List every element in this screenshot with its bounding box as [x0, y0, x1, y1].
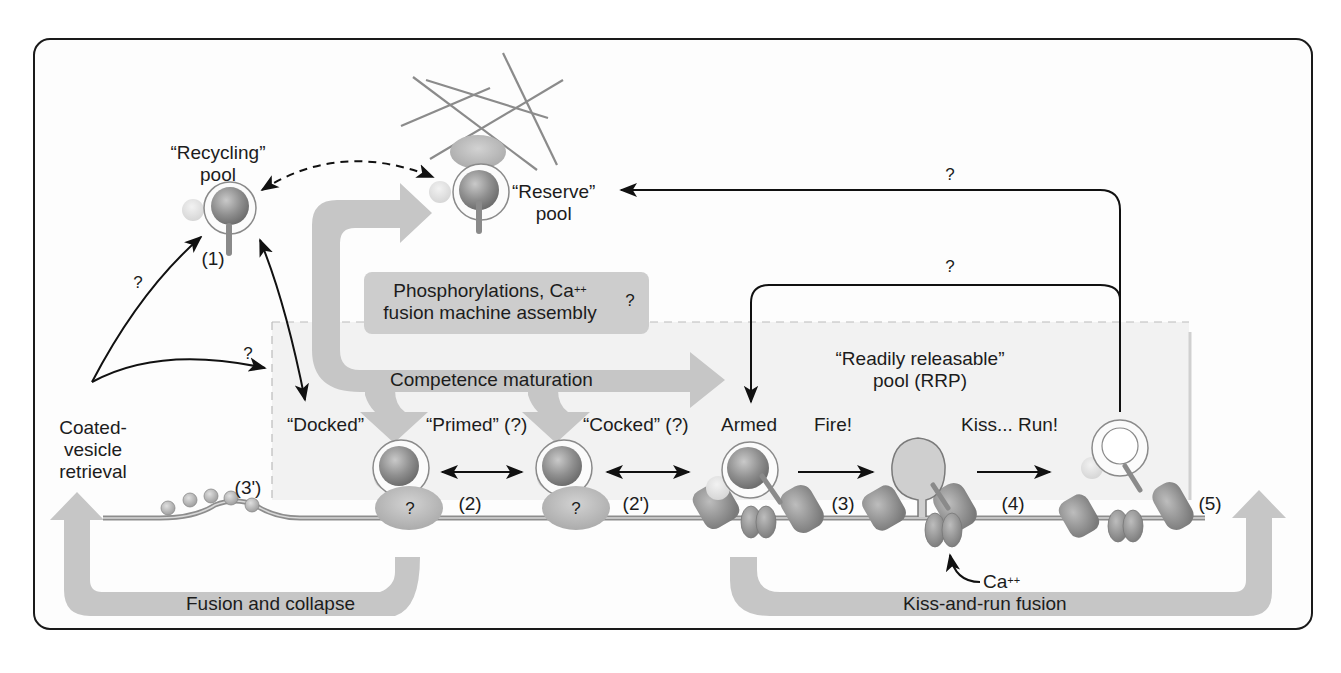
recycling-pool-label: “Recycling”pool [158, 142, 278, 186]
fusion-collapse-label: Fusion and collapse [186, 593, 355, 615]
step-2prime-label: (2') [616, 493, 656, 515]
rrp-label: “Readily releasable”pool (RRP) [820, 348, 1020, 392]
coated-vesicle-retrieval-label: Coated-vesicleretrieval [44, 417, 142, 483]
stage-armed-label: Armed [721, 414, 777, 436]
calcium-label: Ca++ [983, 571, 1020, 593]
stage-docked-label: “Docked” [287, 414, 364, 436]
step-2-label: (2) [452, 493, 488, 515]
step-4-label: (4) [995, 493, 1031, 515]
step-3-label: (3) [825, 493, 861, 515]
question-retrieval-recycling: ? [128, 272, 148, 294]
vesicle-cycle-diagram: “Recycling”pool (1) “Reserve”pool ? ? ? … [0, 0, 1341, 673]
docked-protein-question: ? [400, 498, 420, 520]
stage-kiss-run-label: Kiss... Run! [961, 414, 1058, 436]
step-5-label: (5) [1192, 493, 1228, 515]
stage-primed-label: “Primed” (?) [426, 414, 527, 436]
step-3prime-label: (3') [228, 477, 268, 499]
question-retrieval-rrp: ? [238, 343, 258, 365]
question-armed: ? [940, 256, 960, 278]
kiss-and-run-label: Kiss-and-run fusion [903, 593, 1067, 615]
primed-protein-question: ? [566, 498, 586, 520]
competence-maturation-label: Competence maturation [390, 369, 593, 391]
question-reserve: ? [940, 164, 960, 186]
stage-cocked-label: “Cocked” (?) [583, 414, 689, 436]
reserve-pool-label: “Reserve”pool [512, 181, 595, 225]
phosphorylation-question: ? [620, 290, 640, 312]
phosphorylation-box-text: Phosphorylations, Ca++ fusion machine as… [370, 280, 610, 324]
stage-fire-label: Fire! [814, 414, 852, 436]
step-1-label: (1) [193, 248, 233, 270]
